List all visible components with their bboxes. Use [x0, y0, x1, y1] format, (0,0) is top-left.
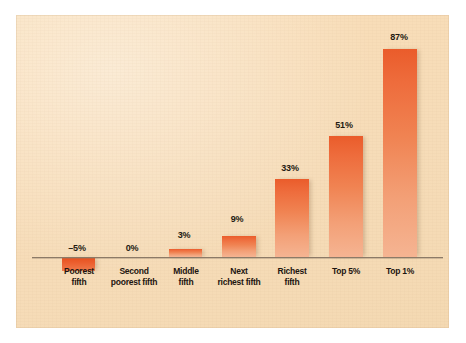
bar-value-label: 3% [162, 230, 206, 240]
bar-middle-fifth [169, 249, 202, 257]
chart-figure: –5% 0% 3% 9% 33% 51% 87% Poorest fifth S… [0, 0, 466, 343]
zero-baseline-axis [32, 257, 443, 258]
bar-value-label: 0% [110, 243, 154, 253]
bar-value-label: 51% [322, 120, 366, 130]
bar-value-label: –5% [55, 243, 99, 253]
bar-value-label: 33% [268, 163, 312, 173]
bar-value-label: 87% [377, 32, 421, 42]
category-label-top-1-percent: Top 1% [367, 266, 433, 277]
bar-top-5-percent [329, 136, 363, 257]
plot-area: –5% 0% 3% 9% 33% 51% 87% Poorest fifth S… [0, 0, 466, 343]
bar-next-richest-fifth [222, 236, 256, 257]
bar-top-1-percent [383, 49, 417, 257]
bar-richest-fifth [275, 179, 309, 257]
bar-value-label: 9% [215, 214, 259, 224]
